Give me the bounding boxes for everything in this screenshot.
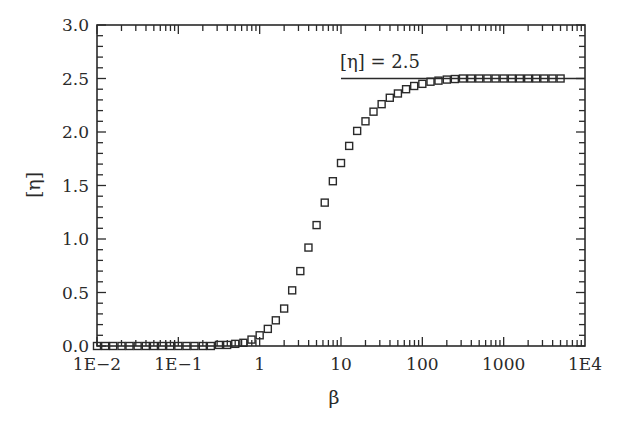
data-point (289, 287, 296, 294)
data-point (411, 82, 418, 89)
y-tick-label: 2.0 (62, 122, 89, 142)
x-axis-label: β (329, 386, 340, 408)
x-tick-label: 100 (406, 354, 438, 374)
data-point (297, 268, 304, 275)
y-tick-label: 2.5 (62, 69, 89, 89)
data-point (354, 127, 361, 134)
data-point (264, 325, 271, 332)
plot-frame (97, 25, 585, 346)
y-tick-label: 0.5 (62, 283, 89, 303)
chart: 1E−21E−111010010001E40.00.51.01.52.02.53… (0, 0, 618, 429)
data-point (443, 76, 450, 83)
y-tick-label: 0.0 (62, 336, 89, 356)
data-point (329, 178, 336, 185)
x-tick-label: 1E−2 (73, 354, 121, 374)
data-point (427, 78, 434, 85)
data-point (321, 199, 328, 206)
annotation-label: [η] = 2.5 (340, 51, 420, 72)
data-point (281, 305, 288, 312)
data-point (419, 80, 426, 87)
data-point (362, 118, 369, 125)
x-tick-label: 10 (330, 354, 352, 374)
axis-ticks (97, 25, 585, 346)
data-point (386, 94, 393, 101)
data-points (94, 75, 565, 350)
tick-labels: 1E−21E−111010010001E40.00.51.01.52.02.53… (62, 15, 602, 374)
data-point (272, 317, 279, 324)
x-tick-label: 1000 (482, 354, 525, 374)
data-point (370, 108, 377, 115)
data-point (313, 222, 320, 229)
x-tick-label: 1E−1 (154, 354, 202, 374)
data-point (394, 90, 401, 97)
data-point (378, 101, 385, 108)
y-axis-label: [η] (22, 172, 44, 198)
data-point (403, 86, 410, 93)
y-tick-label: 1.5 (62, 176, 89, 196)
y-tick-label: 1.0 (62, 229, 89, 249)
data-point (346, 142, 353, 149)
data-point (338, 160, 345, 167)
y-tick-label: 3.0 (62, 15, 89, 35)
x-tick-label: 1E4 (568, 354, 602, 374)
x-tick-label: 1 (254, 354, 265, 374)
data-point (305, 244, 312, 251)
